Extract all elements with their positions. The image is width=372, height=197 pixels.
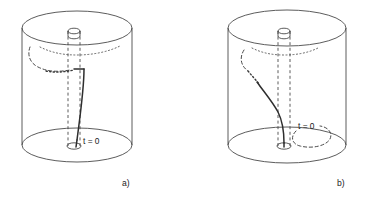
- time-label-a: t = 0: [83, 136, 100, 146]
- time-label-b: t = 0: [298, 121, 315, 131]
- hook-curve-a: [29, 47, 70, 71]
- string-a-body: [77, 69, 84, 140]
- panel-label-a: a): [122, 178, 130, 188]
- axis-b-top-cap: [278, 28, 290, 34]
- cylinder-b-bottom-ellipse: [228, 127, 346, 163]
- panel-a: t = 0 a): [22, 11, 132, 188]
- panel-b: t = 0 b): [228, 10, 346, 188]
- axis-b-top-cap-bottom-arc: [278, 36, 290, 39]
- axis-a-top-cap-bottom-arc: [68, 36, 80, 39]
- hook-curve-b: [241, 50, 248, 71]
- axis-a-top-cap: [68, 28, 80, 34]
- figure-root: t = 0 a): [0, 0, 372, 197]
- panel-label-b: b): [337, 178, 345, 188]
- axis-a-bottom-cap: [67, 143, 81, 149]
- string-a-tip: [76, 140, 77, 147]
- string-b-body: [257, 82, 284, 143]
- cylinder-figure: t = 0 a): [0, 0, 372, 197]
- dotted-latitude-b: [252, 48, 318, 55]
